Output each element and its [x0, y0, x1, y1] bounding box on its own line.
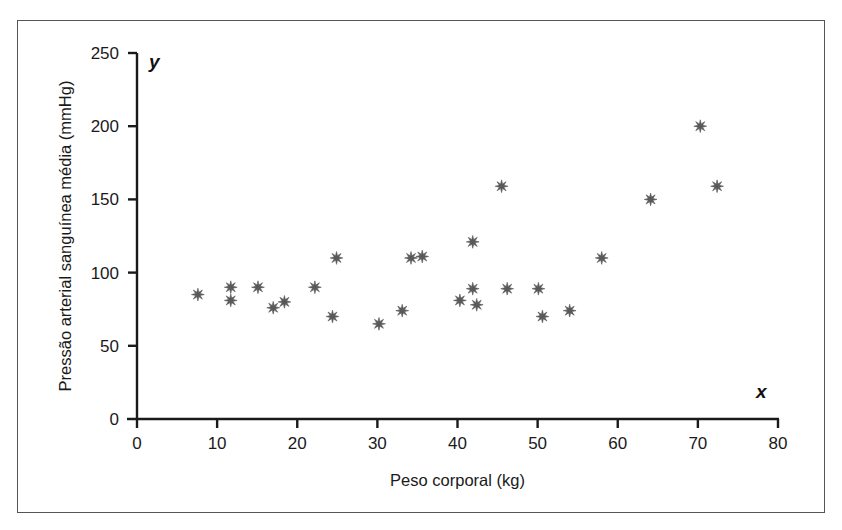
data-point [694, 120, 707, 133]
data-point [495, 180, 508, 193]
data-point [396, 304, 409, 317]
data-point [278, 295, 291, 308]
x-tick-label-60: 60 [608, 435, 627, 452]
data-point [330, 252, 343, 265]
data-point [267, 301, 280, 314]
data-point [454, 294, 467, 307]
y-tick-label-50: 50 [100, 337, 119, 354]
x-tick-label-30: 30 [368, 435, 387, 452]
data-point [563, 304, 576, 317]
y-axis-title: Pressão arterial sanguínea média (mmHg) [56, 56, 75, 416]
x-tick-label-80: 80 [769, 435, 788, 452]
x-tick-label-0: 0 [132, 435, 141, 452]
data-point [326, 310, 339, 323]
x-tick-label-50: 50 [528, 435, 547, 452]
data-point [711, 180, 724, 193]
plot-area: 050100150200250 01020304050607080 Pressã… [18, 21, 824, 512]
data-point [595, 252, 608, 265]
data-point [532, 282, 545, 295]
y-tick-label-150: 150 [91, 191, 119, 208]
data-point [466, 282, 479, 295]
series-0 [192, 120, 724, 330]
data-point [192, 288, 205, 301]
data-point [536, 310, 549, 323]
y-tick-label-100: 100 [91, 264, 119, 281]
data-point [470, 298, 483, 311]
data-point [405, 252, 418, 265]
x-tick-label-40: 40 [448, 435, 467, 452]
data-point [224, 281, 237, 294]
x-axis-title: Peso corporal (kg) [137, 471, 778, 490]
figure-page: 050100150200250 01020304050607080 Pressã… [0, 0, 842, 530]
data-point [224, 294, 237, 307]
y-tick-label-0: 0 [110, 411, 119, 428]
x-tick-label-20: 20 [288, 435, 307, 452]
y-tick-label-250: 250 [91, 45, 119, 62]
data-point [501, 282, 514, 295]
x-tick-label-10: 10 [208, 435, 227, 452]
data-point [416, 250, 429, 263]
x-tick-label-70: 70 [688, 435, 707, 452]
y-tick-label-200: 200 [91, 118, 119, 135]
figure-frame: 050100150200250 01020304050607080 Pressã… [17, 20, 825, 513]
x-axis-letter: x [756, 381, 767, 403]
data-point [252, 281, 265, 294]
data-point [466, 235, 479, 248]
data-point [644, 193, 657, 206]
data-point [373, 317, 386, 330]
y-axis-letter: y [149, 51, 160, 73]
data-point [308, 281, 321, 294]
